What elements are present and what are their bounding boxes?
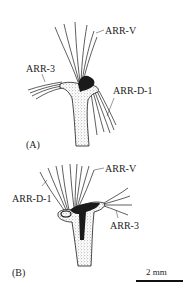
panel-label-a: (A) <box>26 140 40 150</box>
stem-a <box>60 82 98 146</box>
scale-bar-label: 2 mm <box>146 268 167 277</box>
label-arr-d1-a: ARR-D-1 <box>113 86 152 96</box>
label-arr-v-b: ARR-V <box>105 164 136 174</box>
label-arr-3-b: ARR-3 <box>110 221 139 231</box>
panel-a-drawing <box>28 22 116 135</box>
figure: ARR-V ARR-3 ARR-D-1 (A) ARR-V ARR-D-1 AR… <box>0 0 185 297</box>
label-arr-d1-b: ARR-D-1 <box>12 194 51 204</box>
label-arr-v-a: ARR-V <box>105 26 136 36</box>
panel-label-b: (B) <box>12 268 25 278</box>
label-arr-3-a: ARR-3 <box>26 64 55 74</box>
